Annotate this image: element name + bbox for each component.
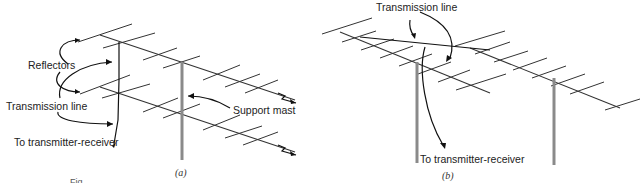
label-to-transmitter-b: To transmitter-receiver: [420, 153, 525, 165]
footer-caption-partial: Fig.: [70, 177, 85, 183]
antenna-diagram: Reflectors Transmission line To transmit…: [0, 0, 642, 183]
antenna-figure: Reflectors Transmission line To transmit…: [0, 0, 642, 183]
label-support-mast: Support mast: [233, 104, 296, 116]
label-transmission-line-a: Transmission line: [6, 100, 87, 112]
panel-b-antenna: [322, 12, 640, 165]
caption-a: (a): [175, 167, 187, 179]
label-transmission-line-b: Transmission line: [376, 1, 457, 13]
caption-b: (b): [442, 170, 454, 182]
label-reflectors: Reflectors: [28, 59, 75, 71]
label-to-transmitter-a: To transmitter-receiver: [14, 136, 119, 148]
